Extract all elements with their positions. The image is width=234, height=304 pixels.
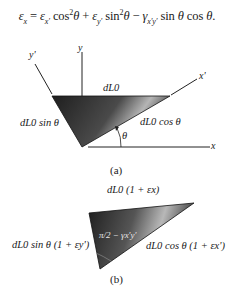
label-dL0-sin: dL0 sin θ <box>20 117 59 128</box>
label-dL0-top: dL0 <box>103 82 119 93</box>
caption-b: (b) <box>110 273 123 285</box>
label-dL0-cos: dL0 cos θ <box>140 116 181 127</box>
x-axis-label: x <box>211 140 215 151</box>
label-b-right: dL0 cos θ (1 + εx') <box>146 240 225 251</box>
x-prime-axis-label: x' <box>199 70 206 81</box>
caption-a: (a) <box>110 164 122 176</box>
label-theta: θ <box>122 130 127 141</box>
label-b-angle: π/2 − γx'y' <box>99 230 136 240</box>
y-prime-axis <box>35 64 52 94</box>
figure-canvas <box>0 0 234 304</box>
y-prime-axis-label: y' <box>29 49 36 60</box>
label-b-top: dL0 (1 + εx) <box>107 184 159 195</box>
y-axis-label: y <box>78 42 82 53</box>
x-prime-axis <box>171 79 197 95</box>
theta-arc <box>117 128 121 147</box>
label-b-left: dL0 sin θ (1 + εy') <box>12 239 89 250</box>
